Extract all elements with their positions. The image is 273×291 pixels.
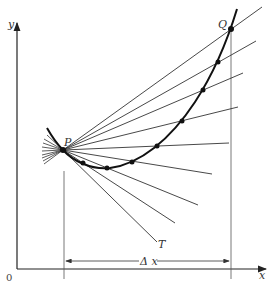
- secant-tangent-diagram: y x 0 P Q T Δ x: [0, 0, 273, 291]
- tangent-line-pt: [63, 150, 157, 242]
- secant-lines: [63, 7, 262, 223]
- delta-x-label: Δ x: [139, 255, 158, 268]
- secant-6: [63, 150, 212, 174]
- tangent-t-label: T: [158, 238, 167, 251]
- y-axis-label: y: [7, 18, 15, 31]
- point-q-label: Q: [218, 18, 227, 31]
- x-axis-label: x: [259, 269, 266, 282]
- point-q-dot: [228, 26, 234, 32]
- secant-2: [63, 41, 256, 150]
- secant-8: [63, 150, 175, 223]
- secant-left-fan: [42, 135, 63, 164]
- axes: [17, 23, 266, 269]
- diagram-canvas: y x 0 P Q T Δ x: [0, 0, 273, 291]
- origin-label: 0: [6, 272, 12, 283]
- secant-3: [63, 73, 243, 150]
- point-p-label: P: [63, 136, 72, 149]
- secant-7: [63, 150, 198, 205]
